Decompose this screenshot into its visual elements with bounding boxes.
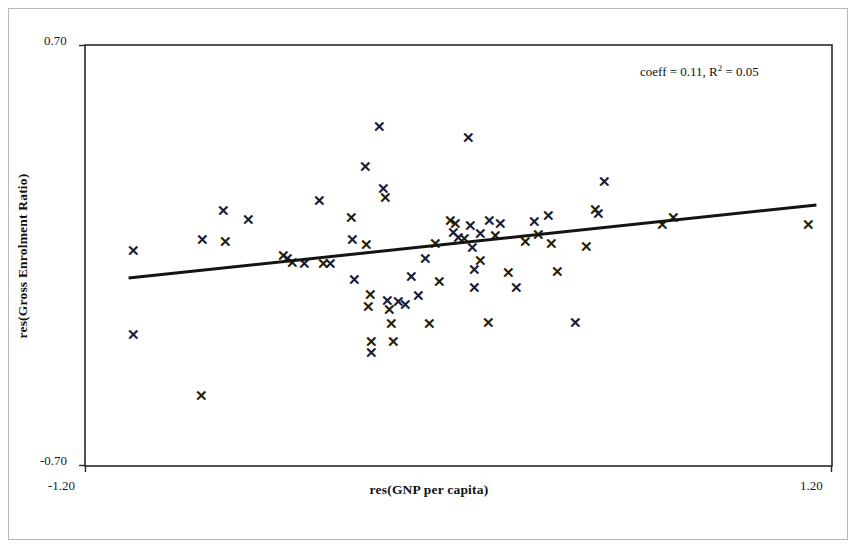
annotation-coeff-text: coeff = 0.11, R <box>640 64 718 79</box>
scatter-point: ✕ <box>462 129 475 146</box>
scatter-point: ✕ <box>429 235 442 252</box>
scatter-point: ✕ <box>412 287 425 304</box>
figure-page: ✕✕✕✕✕✕✕✕✕✕✕✕✕✕✕✕✕✕✕✕✕✕✕✕✕✕✕✕✕✕✕✕✕✕✕✕✕✕✕✕… <box>0 0 858 550</box>
scatter-point: ✕ <box>379 189 392 206</box>
scatter-point: ✕ <box>346 231 359 248</box>
scatter-point: ✕ <box>667 209 680 226</box>
scatter-point: ✕ <box>365 344 378 361</box>
x-axis-title: res(GNP per capita) <box>0 482 858 498</box>
scatter-point: ✕ <box>423 315 436 332</box>
plot-frame <box>79 45 832 472</box>
scatter-point: ✕ <box>313 192 326 209</box>
y-axis-tick-label-max: 0.70 <box>44 33 67 49</box>
scatter-point: ✕ <box>474 252 487 269</box>
data-points-layer: ✕✕✕✕✕✕✕✕✕✕✕✕✕✕✕✕✕✕✕✕✕✕✕✕✕✕✕✕✕✕✕✕✕✕✕✕✕✕✕✕… <box>127 118 815 404</box>
scatter-point: ✕ <box>127 326 140 343</box>
scatter-point: ✕ <box>551 263 564 280</box>
chart-canvas: ✕✕✕✕✕✕✕✕✕✕✕✕✕✕✕✕✕✕✕✕✕✕✕✕✕✕✕✕✕✕✕✕✕✕✕✕✕✕✕✕… <box>0 0 858 550</box>
scatter-point: ✕ <box>242 211 255 228</box>
y-axis-title: res(Gross Enrolment Ratio) <box>2 0 44 512</box>
scatter-point: ✕ <box>419 250 432 267</box>
scatter-point: ✕ <box>592 205 605 222</box>
scatter-point: ✕ <box>127 242 140 259</box>
scatter-plot-figure: ✕✕✕✕✕✕✕✕✕✕✕✕✕✕✕✕✕✕✕✕✕✕✕✕✕✕✕✕✕✕✕✕✕✕✕✕✕✕✕✕… <box>0 0 858 550</box>
scatter-point: ✕ <box>405 268 418 285</box>
scatter-point: ✕ <box>219 233 232 250</box>
scatter-point: ✕ <box>387 333 400 350</box>
scatter-point: ✕ <box>482 314 495 331</box>
scatter-point: ✕ <box>359 158 372 175</box>
scatter-point: ✕ <box>348 271 361 288</box>
scatter-point: ✕ <box>545 235 558 252</box>
y-axis-tick-label-min: -0.70 <box>40 453 67 469</box>
scatter-point: ✕ <box>598 173 611 190</box>
scatter-point: ✕ <box>494 215 507 232</box>
scatter-point: ✕ <box>399 296 412 313</box>
scatter-point: ✕ <box>510 279 523 296</box>
scatter-point: ✕ <box>802 216 815 233</box>
scatter-point: ✕ <box>195 387 208 404</box>
scatter-point: ✕ <box>468 279 481 296</box>
scatter-point: ✕ <box>360 236 373 253</box>
annotation-rsq-text: = 0.05 <box>722 64 759 79</box>
scatter-point: ✕ <box>385 315 398 332</box>
scatter-point: ✕ <box>364 286 377 303</box>
scatter-point: ✕ <box>433 273 446 290</box>
scatter-point: ✕ <box>502 264 515 281</box>
scatter-point: ✕ <box>217 202 230 219</box>
scatter-point: ✕ <box>542 207 555 224</box>
scatter-point: ✕ <box>580 238 593 255</box>
scatter-point: ✕ <box>298 255 311 272</box>
scatter-point: ✕ <box>373 118 386 135</box>
y-axis-title-text: res(Gross Enrolment Ratio) <box>15 174 31 339</box>
scatter-point: ✕ <box>345 209 358 226</box>
regression-stats-annotation: coeff = 0.11, R2 = 0.05 <box>640 63 759 80</box>
scatter-point: ✕ <box>196 231 209 248</box>
scatter-point: ✕ <box>569 314 582 331</box>
